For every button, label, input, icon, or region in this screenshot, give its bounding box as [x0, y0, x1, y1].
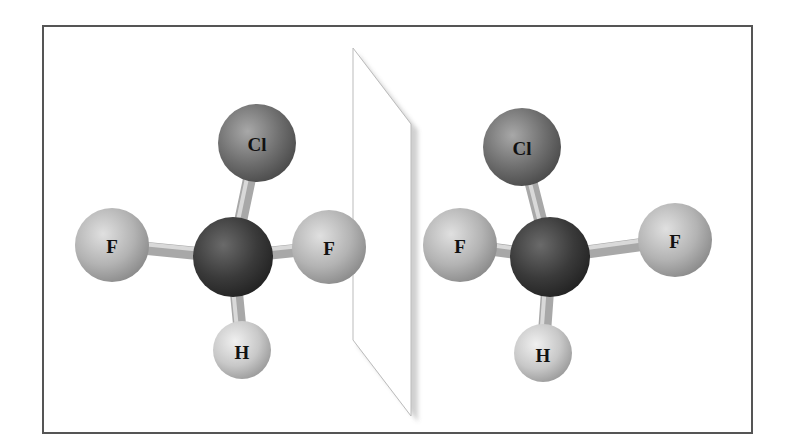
- atom-label-f: F: [454, 236, 466, 257]
- left-molecule: Cl F F H: [75, 104, 366, 379]
- atom-label-h: H: [235, 342, 250, 363]
- mirror-image-diagram: Cl F F H Cl F F H: [0, 0, 796, 447]
- atom-label-h: H: [536, 345, 551, 366]
- carbon-atom: [510, 217, 590, 297]
- carbon-atom: [193, 217, 273, 297]
- atom-label-f: F: [323, 238, 335, 259]
- atom-label-cl: Cl: [513, 138, 532, 159]
- atom-label-cl: Cl: [248, 134, 267, 155]
- atom-label-f: F: [669, 231, 681, 252]
- atom-label-f: F: [106, 236, 118, 257]
- right-molecule: Cl F F H: [423, 108, 712, 382]
